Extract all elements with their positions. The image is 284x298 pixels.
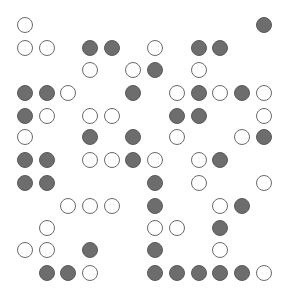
- filled-circle-icon[interactable]: [256, 129, 272, 145]
- open-circle-icon[interactable]: [234, 129, 250, 145]
- open-circle-icon[interactable]: [60, 85, 76, 101]
- open-circle-icon[interactable]: [212, 242, 228, 258]
- open-circle-icon[interactable]: [191, 62, 207, 78]
- open-circle-icon[interactable]: [191, 175, 207, 191]
- open-circle-icon[interactable]: [147, 220, 163, 236]
- open-circle-icon[interactable]: [169, 129, 185, 145]
- filled-circle-icon[interactable]: [234, 198, 250, 214]
- open-circle-icon[interactable]: [39, 40, 55, 56]
- filled-circle-icon[interactable]: [191, 265, 207, 281]
- open-circle-icon[interactable]: [82, 62, 98, 78]
- filled-circle-icon[interactable]: [39, 265, 55, 281]
- filled-circle-icon[interactable]: [17, 108, 33, 124]
- filled-circle-icon[interactable]: [39, 85, 55, 101]
- filled-circle-icon[interactable]: [256, 17, 272, 33]
- filled-circle-icon[interactable]: [60, 265, 76, 281]
- open-circle-icon[interactable]: [212, 85, 228, 101]
- open-circle-icon[interactable]: [60, 198, 76, 214]
- open-circle-icon[interactable]: [104, 108, 120, 124]
- open-circle-icon[interactable]: [82, 108, 98, 124]
- filled-circle-icon[interactable]: [147, 62, 163, 78]
- filled-circle-icon[interactable]: [212, 265, 228, 281]
- filled-circle-icon[interactable]: [39, 152, 55, 168]
- open-circle-icon[interactable]: [39, 220, 55, 236]
- filled-circle-icon[interactable]: [147, 242, 163, 258]
- open-circle-icon[interactable]: [256, 108, 272, 124]
- filled-circle-icon[interactable]: [82, 40, 98, 56]
- filled-circle-icon[interactable]: [234, 85, 250, 101]
- open-circle-icon[interactable]: [256, 265, 272, 281]
- open-circle-icon[interactable]: [212, 198, 228, 214]
- filled-circle-icon[interactable]: [82, 242, 98, 258]
- filled-circle-icon[interactable]: [147, 265, 163, 281]
- open-circle-icon[interactable]: [104, 152, 120, 168]
- open-circle-icon[interactable]: [39, 242, 55, 258]
- filled-circle-icon[interactable]: [82, 129, 98, 145]
- open-circle-icon[interactable]: [256, 175, 272, 191]
- filled-circle-icon[interactable]: [17, 85, 33, 101]
- filled-circle-icon[interactable]: [234, 265, 250, 281]
- filled-circle-icon[interactable]: [39, 175, 55, 191]
- open-circle-icon[interactable]: [147, 40, 163, 56]
- filled-circle-icon[interactable]: [191, 40, 207, 56]
- filled-circle-icon[interactable]: [212, 152, 228, 168]
- open-circle-icon[interactable]: [125, 62, 141, 78]
- puzzle-board: [0, 0, 284, 298]
- filled-circle-icon[interactable]: [147, 198, 163, 214]
- filled-circle-icon[interactable]: [212, 220, 228, 236]
- open-circle-icon[interactable]: [82, 198, 98, 214]
- open-circle-icon[interactable]: [17, 129, 33, 145]
- open-circle-icon[interactable]: [169, 220, 185, 236]
- filled-circle-icon[interactable]: [125, 85, 141, 101]
- filled-circle-icon[interactable]: [212, 40, 228, 56]
- filled-circle-icon[interactable]: [17, 152, 33, 168]
- open-circle-icon[interactable]: [147, 152, 163, 168]
- open-circle-icon[interactable]: [82, 265, 98, 281]
- filled-circle-icon[interactable]: [17, 175, 33, 191]
- open-circle-icon[interactable]: [169, 85, 185, 101]
- open-circle-icon[interactable]: [17, 17, 33, 33]
- open-circle-icon[interactable]: [82, 152, 98, 168]
- filled-circle-icon[interactable]: [147, 175, 163, 191]
- open-circle-icon[interactable]: [256, 85, 272, 101]
- open-circle-icon[interactable]: [39, 108, 55, 124]
- filled-circle-icon[interactable]: [125, 129, 141, 145]
- open-circle-icon[interactable]: [104, 198, 120, 214]
- filled-circle-icon[interactable]: [191, 108, 207, 124]
- filled-circle-icon[interactable]: [169, 108, 185, 124]
- filled-circle-icon[interactable]: [191, 85, 207, 101]
- filled-circle-icon[interactable]: [169, 265, 185, 281]
- filled-circle-icon[interactable]: [104, 40, 120, 56]
- open-circle-icon[interactable]: [191, 152, 207, 168]
- open-circle-icon[interactable]: [17, 40, 33, 56]
- filled-circle-icon[interactable]: [125, 152, 141, 168]
- open-circle-icon[interactable]: [17, 242, 33, 258]
